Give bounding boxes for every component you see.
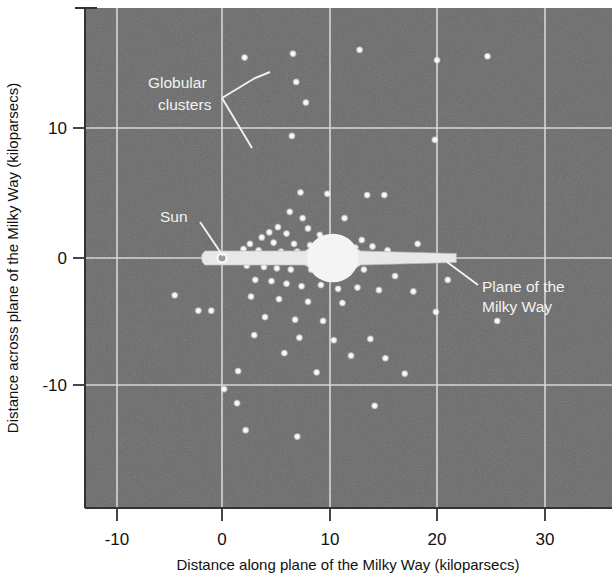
data-point bbox=[246, 240, 253, 247]
data-point bbox=[494, 317, 501, 324]
data-point bbox=[273, 265, 280, 272]
data-point bbox=[302, 99, 309, 106]
x-tick-marks bbox=[117, 509, 545, 521]
data-point bbox=[367, 335, 374, 342]
data-point bbox=[410, 288, 417, 295]
y-tick-label: 0 bbox=[58, 249, 67, 268]
data-point bbox=[360, 266, 367, 273]
data-point bbox=[290, 240, 297, 247]
data-point bbox=[304, 298, 311, 305]
data-point bbox=[281, 349, 288, 356]
data-point bbox=[364, 191, 371, 198]
x-tick-label: 30 bbox=[536, 530, 555, 549]
figure-root: Globular clusters Sun Plane of the Milky… bbox=[0, 0, 612, 576]
plane-label-line2: Milky Way bbox=[482, 298, 552, 315]
globular-clusters-label-line1: Globular bbox=[148, 74, 207, 91]
y-tick-labels: 10 0 -10 bbox=[42, 119, 67, 395]
data-point bbox=[275, 296, 282, 303]
x-axis-title: Distance along plane of the Milky Way (k… bbox=[177, 556, 520, 573]
y-tick-label: -10 bbox=[42, 376, 67, 395]
data-point bbox=[317, 281, 324, 288]
data-point bbox=[251, 332, 258, 339]
y-axis-title: Distance across plane of the Milky Way (… bbox=[4, 83, 21, 433]
data-point bbox=[241, 54, 248, 61]
data-point bbox=[381, 191, 388, 198]
data-point bbox=[319, 317, 326, 324]
data-point bbox=[298, 283, 305, 290]
data-point bbox=[382, 355, 389, 362]
x-tick-label: -10 bbox=[105, 530, 130, 549]
data-point bbox=[335, 285, 342, 292]
data-point bbox=[294, 433, 301, 440]
globular-clusters-label-line2: clusters bbox=[158, 96, 212, 113]
data-point bbox=[233, 400, 240, 407]
data-point bbox=[431, 136, 438, 143]
data-point bbox=[358, 236, 365, 243]
data-point bbox=[195, 307, 202, 314]
data-point bbox=[433, 57, 440, 64]
y-tick-marks bbox=[73, 128, 85, 385]
data-point bbox=[266, 229, 273, 236]
data-point bbox=[283, 280, 290, 287]
sun-label: Sun bbox=[160, 208, 188, 225]
y-tick-label: 10 bbox=[48, 119, 67, 138]
data-point bbox=[414, 240, 421, 247]
data-point bbox=[354, 284, 361, 291]
data-point bbox=[391, 272, 398, 279]
x-tick-label: 10 bbox=[321, 530, 340, 549]
data-point bbox=[304, 225, 311, 232]
data-point bbox=[252, 276, 259, 283]
data-point bbox=[235, 367, 242, 374]
data-point bbox=[221, 385, 228, 392]
data-point bbox=[208, 307, 215, 314]
data-point bbox=[247, 293, 254, 300]
data-point bbox=[270, 239, 277, 246]
data-point bbox=[289, 50, 296, 57]
data-point bbox=[341, 215, 348, 222]
data-point bbox=[287, 266, 294, 273]
data-point bbox=[258, 234, 265, 241]
data-point bbox=[171, 292, 178, 299]
data-point bbox=[347, 352, 354, 359]
scatter-figure: Globular clusters Sun Plane of the Milky… bbox=[0, 0, 612, 576]
galactic-bulge bbox=[307, 234, 358, 283]
data-point bbox=[444, 276, 451, 283]
data-point bbox=[292, 316, 299, 323]
data-point bbox=[297, 189, 304, 196]
data-point bbox=[375, 287, 382, 294]
data-point bbox=[242, 427, 249, 434]
data-point bbox=[324, 190, 331, 197]
x-tick-labels: -10 0 10 20 30 bbox=[105, 530, 555, 549]
data-point bbox=[401, 370, 408, 377]
data-point bbox=[274, 224, 281, 231]
data-point bbox=[283, 230, 290, 237]
data-point bbox=[299, 215, 306, 222]
data-point bbox=[356, 46, 363, 53]
x-tick-label: 20 bbox=[428, 530, 447, 549]
data-point bbox=[369, 243, 376, 250]
data-point bbox=[286, 208, 293, 215]
data-point bbox=[371, 402, 378, 409]
data-point bbox=[288, 132, 295, 139]
data-point bbox=[313, 369, 320, 376]
x-tick-label: 0 bbox=[217, 530, 226, 549]
data-point bbox=[339, 299, 346, 306]
data-point bbox=[268, 278, 275, 285]
data-point bbox=[484, 53, 491, 60]
data-point bbox=[330, 337, 337, 344]
data-point bbox=[432, 308, 439, 315]
plane-label-line1: Plane of the bbox=[482, 278, 565, 295]
data-point bbox=[293, 78, 300, 85]
data-point bbox=[296, 334, 303, 341]
data-point bbox=[261, 314, 268, 321]
